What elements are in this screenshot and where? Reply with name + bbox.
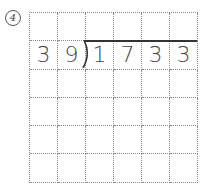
dividend-digit: 3 (142, 41, 170, 69)
grid-cell[interactable] (86, 98, 114, 126)
grid-cell[interactable] (114, 13, 142, 41)
grid-cell[interactable] (170, 98, 198, 126)
dividend-digit: 7 (114, 41, 142, 69)
divisor-digit: 3 (30, 41, 58, 69)
grid-cell[interactable] (170, 70, 198, 98)
grid-cell[interactable] (58, 70, 86, 98)
grid-cell[interactable] (170, 13, 198, 41)
grid-cell[interactable] (142, 70, 170, 98)
grid-cell[interactable] (114, 154, 142, 182)
division-bar (85, 40, 197, 42)
grid-cell[interactable] (170, 126, 198, 154)
grid-cell[interactable] (86, 154, 114, 182)
grid-cell[interactable] (86, 126, 114, 154)
grid-cell[interactable] (86, 13, 114, 41)
dividend-digit: 3 (170, 41, 198, 69)
grid-cell[interactable] (58, 98, 86, 126)
grid-cell[interactable] (142, 98, 170, 126)
grid-cell[interactable] (142, 126, 170, 154)
division-bracket-icon (81, 40, 91, 68)
grid-cell[interactable] (114, 98, 142, 126)
grid-cell[interactable] (142, 154, 170, 182)
grid-cell[interactable] (142, 13, 170, 41)
division-grid: 3 9 1 7 3 3 (29, 12, 198, 183)
grid-cell[interactable] (30, 70, 58, 98)
grid-cell[interactable] (30, 13, 58, 41)
grid-cell[interactable] (114, 126, 142, 154)
grid-cell[interactable] (86, 70, 114, 98)
grid-cell[interactable] (58, 13, 86, 41)
grid-cell[interactable] (170, 154, 198, 182)
grid-cell[interactable] (58, 126, 86, 154)
grid-cell[interactable] (114, 70, 142, 98)
grid-cell[interactable] (58, 154, 86, 182)
grid-cell[interactable] (30, 154, 58, 182)
problem-number-badge: 4 (5, 10, 21, 26)
grid-cell[interactable] (30, 98, 58, 126)
grid-cell[interactable] (30, 126, 58, 154)
